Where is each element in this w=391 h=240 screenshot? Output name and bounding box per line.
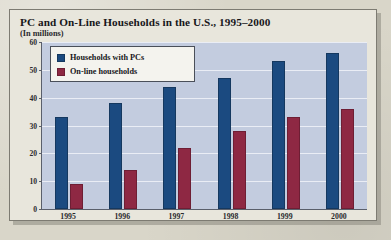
legend-swatch-blue (57, 54, 65, 62)
chart-card: PC and On-Line Households in the U.S., 1… (9, 9, 377, 221)
y-tick-mark (39, 181, 42, 182)
gridline (42, 42, 367, 43)
legend-label-1: On-line households (70, 67, 137, 76)
chart-subtitle: (In millions) (20, 29, 64, 38)
legend-item-0: Households with PCs (57, 53, 144, 62)
x-tick-label-1997: 1997 (169, 212, 185, 221)
legend-swatch-red (57, 68, 65, 76)
chart-legend: Households with PCs On-line households (50, 46, 195, 82)
x-tick-label-1998: 1998 (223, 212, 239, 221)
x-tick-label-2000: 2000 (331, 212, 347, 221)
bar-on-line-households-1998 (233, 131, 246, 209)
bar-on-line-households-1999 (287, 117, 300, 209)
gridline (42, 181, 367, 182)
bar-households-with-pcs-2000 (326, 53, 339, 209)
y-tick-mark (39, 42, 42, 43)
bar-on-line-households-2000 (341, 109, 354, 209)
y-tick-label: 60 (29, 38, 37, 47)
y-tick-mark (39, 70, 42, 71)
gridline (42, 153, 367, 154)
y-tick-label: 0 (33, 205, 37, 214)
y-tick-label: 30 (29, 121, 37, 130)
x-tick-label-1996: 1996 (114, 212, 130, 221)
bar-on-line-households-1995 (70, 184, 83, 209)
y-tick-mark (39, 209, 42, 210)
bar-on-line-households-1996 (124, 170, 137, 209)
legend-item-1: On-line households (57, 67, 137, 76)
y-tick-mark (39, 98, 42, 99)
legend-label-0: Households with PCs (70, 53, 144, 62)
chart-title: PC and On-Line Households in the U.S., 1… (20, 16, 270, 28)
bar-households-with-pcs-1997 (163, 87, 176, 209)
page-background: PC and On-Line Households in the U.S., 1… (0, 0, 391, 237)
x-tick-label-1995: 1995 (60, 212, 76, 221)
gridline (42, 98, 367, 99)
bar-households-with-pcs-1998 (218, 78, 231, 209)
y-tick-label: 20 (29, 149, 37, 158)
x-tick-label-1999: 1999 (277, 212, 293, 221)
y-tick-label: 40 (29, 93, 37, 102)
y-tick-mark (39, 153, 42, 154)
bar-on-line-households-1997 (178, 148, 191, 209)
gridline (42, 126, 367, 127)
y-axis: 0102030405060 (10, 42, 41, 210)
bar-households-with-pcs-1996 (109, 103, 122, 209)
y-tick-label: 10 (29, 177, 37, 186)
y-tick-label: 50 (29, 65, 37, 74)
bar-households-with-pcs-1999 (272, 61, 285, 209)
bar-households-with-pcs-1995 (55, 117, 68, 209)
y-tick-mark (39, 126, 42, 127)
